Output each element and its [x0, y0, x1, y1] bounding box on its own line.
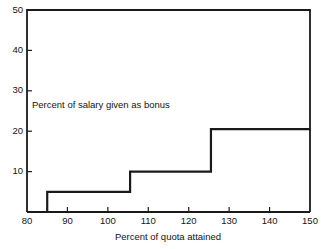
- x-tick-label-80: 80: [22, 215, 33, 226]
- step-chart: 1020304050 8090100110120130140150 Percen…: [0, 0, 321, 249]
- x-tick-label-110: 110: [141, 215, 156, 226]
- x-tick-label-140: 140: [262, 215, 278, 226]
- series-annotation-label: Percent of salary given as bonus: [32, 99, 170, 110]
- y-tick-label-10: 10: [12, 165, 23, 176]
- x-tick-label-90: 90: [62, 215, 73, 226]
- y-tick-label-30: 30: [12, 84, 23, 95]
- chart-container: 1020304050 8090100110120130140150 Percen…: [0, 0, 321, 249]
- x-tick-label-130: 130: [221, 215, 237, 226]
- x-tick-label-150: 150: [302, 215, 318, 226]
- x-tick-label-120: 120: [181, 215, 197, 226]
- y-tick-label-20: 20: [12, 125, 23, 136]
- y-tick-label-40: 40: [12, 44, 23, 55]
- x-axis-title: Percent of quota attained: [115, 231, 221, 242]
- y-tick-label-50: 50: [12, 4, 23, 15]
- x-tick-label-100: 100: [100, 215, 116, 226]
